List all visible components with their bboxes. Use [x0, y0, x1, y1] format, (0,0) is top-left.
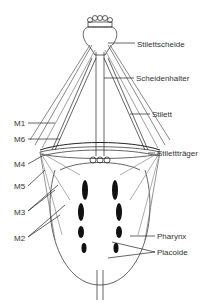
label-stilettscheide: Stilettscheide	[137, 40, 185, 49]
label-m4: M4	[14, 160, 25, 169]
label-m2: M2	[14, 234, 25, 243]
label-stilettraeger: Stilettträger	[157, 149, 198, 158]
label-scheidenhalter: Scheidenhalter	[136, 74, 189, 83]
label-m6: M6	[14, 135, 25, 144]
label-m3: M3	[14, 208, 25, 217]
label-placoide: Placoide	[157, 248, 188, 257]
mouth-ring	[88, 16, 113, 28]
label-stilett: Stilett	[152, 110, 172, 119]
label-m5: M5	[14, 182, 25, 191]
label-m1: M1	[14, 119, 25, 128]
placoids	[78, 180, 122, 253]
pharynx-outline	[50, 170, 150, 285]
label-pharynx: Pharynx	[157, 232, 186, 241]
stilett-sheath	[83, 27, 117, 55]
